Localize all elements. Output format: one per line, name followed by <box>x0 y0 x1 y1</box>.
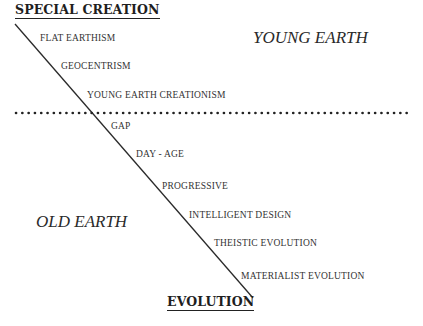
top-pole-title: SPECIAL CREATION <box>15 2 160 19</box>
region-old-earth: OLD EARTH <box>36 212 127 232</box>
bottom-pole-title: EVOLUTION <box>167 294 254 311</box>
position-geocentrism: GEOCENTRISM <box>61 61 131 71</box>
spectrum-diagonal-line <box>15 24 253 298</box>
position-young-earth-creationism: YOUNG EARTH CREATIONISM <box>87 90 226 100</box>
position-day-age: DAY - AGE <box>136 149 184 159</box>
position-flat-earthism: FLAT EARTHISM <box>40 33 116 43</box>
region-young-earth: YOUNG EARTH <box>253 28 368 48</box>
position-gap: GAP <box>111 121 131 131</box>
position-intelligent-design: INTELLIGENT DESIGN <box>189 210 291 220</box>
position-theistic-evolution: THEISTIC EVOLUTION <box>214 238 317 248</box>
position-materialist-evolution: MATERIALIST EVOLUTION <box>241 271 365 281</box>
position-progressive: PROGRESSIVE <box>162 181 228 191</box>
